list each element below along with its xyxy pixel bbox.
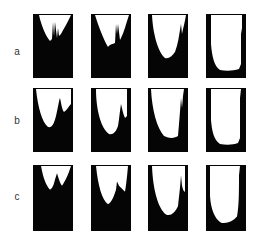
- panel-b4: [206, 88, 246, 152]
- panel-a2: [91, 14, 131, 78]
- cavity-shape: [211, 89, 241, 145]
- panel-c4: [206, 165, 246, 231]
- panel-c2: [91, 165, 131, 231]
- panel-b2: [91, 88, 131, 152]
- row-label-c: c: [12, 192, 22, 202]
- panel-a4: [206, 14, 246, 78]
- cavity-shape: [210, 166, 240, 223]
- row-label-a: a: [12, 47, 22, 57]
- panel-c1: [33, 165, 73, 231]
- cavity-shape: [211, 15, 242, 71]
- row-label-b: b: [12, 116, 22, 126]
- panel-c3: [148, 165, 188, 231]
- panel-b3: [148, 88, 188, 152]
- panel-b1: [33, 88, 73, 152]
- panel-a1: [33, 14, 73, 78]
- panel-a3: [148, 14, 188, 78]
